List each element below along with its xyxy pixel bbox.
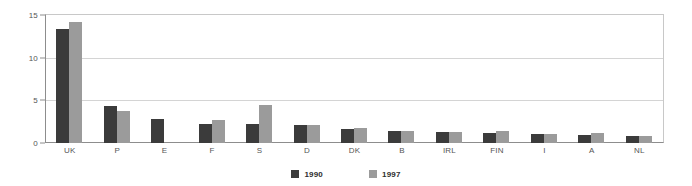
bar-group [531, 15, 558, 143]
bar-p-1997[interactable] [117, 111, 130, 143]
bar-b-1997[interactable] [401, 131, 414, 143]
x-tick-label: NL [634, 146, 645, 155]
bar-group [104, 15, 131, 143]
bars-layer [46, 15, 663, 143]
y-tick-label: 15 [29, 11, 38, 20]
bar-a-1990[interactable] [578, 135, 591, 143]
bar-group [341, 15, 368, 143]
chart-legend: 1990 1997 [0, 167, 692, 181]
bar-group [246, 15, 273, 143]
bar-s-1997[interactable] [259, 105, 272, 143]
bar-irl-1997[interactable] [449, 132, 462, 143]
bar-nl-1997[interactable] [639, 136, 652, 143]
legend-item-1997[interactable]: 1997 [369, 170, 401, 179]
bar-uk-1997[interactable] [69, 22, 82, 143]
bar-group [199, 15, 226, 143]
bar-f-1990[interactable] [199, 124, 212, 143]
x-tick-label: D [304, 146, 310, 155]
x-tick-label: UK [64, 146, 76, 155]
bar-i-1990[interactable] [531, 134, 544, 143]
bar-group [388, 15, 415, 143]
bar-group [294, 15, 321, 143]
bar-fin-1997[interactable] [496, 131, 509, 143]
bar-chart: 051015 UKPEFSDDKBIRLFINIANL 1990 1997 [0, 0, 692, 186]
x-tick-label: E [162, 146, 168, 155]
bar-p-1990[interactable] [104, 106, 117, 143]
bar-d-1997[interactable] [307, 125, 320, 143]
legend-swatch-1997 [369, 170, 377, 178]
x-tick-label: B [399, 146, 405, 155]
legend-label-1997: 1997 [382, 170, 401, 179]
bar-e-1990[interactable] [151, 119, 164, 143]
bar-group [483, 15, 510, 143]
bar-d-1990[interactable] [294, 125, 307, 143]
bar-a-1997[interactable] [591, 133, 604, 143]
y-tick-label: 5 [33, 96, 38, 105]
x-tick-label: FIN [490, 146, 504, 155]
bar-b-1990[interactable] [388, 131, 401, 143]
legend-label-1990: 1990 [304, 170, 323, 179]
bar-irl-1990[interactable] [436, 132, 449, 143]
x-tick-label: A [589, 146, 595, 155]
legend-item-1990[interactable]: 1990 [291, 170, 323, 179]
x-tick-label: DK [349, 146, 361, 155]
bar-s-1990[interactable] [246, 124, 259, 143]
x-tick-label: P [114, 146, 120, 155]
x-tick-label: IRL [443, 146, 456, 155]
bar-group [578, 15, 605, 143]
legend-swatch-1990 [291, 170, 299, 178]
bar-i-1997[interactable] [544, 134, 557, 143]
bar-nl-1990[interactable] [626, 136, 639, 143]
bar-group [626, 15, 653, 143]
x-tick-label: I [543, 146, 545, 155]
bar-group [56, 15, 83, 143]
bar-uk-1990[interactable] [56, 29, 69, 143]
bar-f-1997[interactable] [212, 120, 225, 143]
y-tick-label: 0 [33, 139, 38, 148]
x-axis-labels: UKPEFSDDKBIRLFINIANL [46, 146, 663, 160]
x-tick-label: S [257, 146, 263, 155]
bar-group [436, 15, 463, 143]
bar-dk-1990[interactable] [341, 129, 354, 143]
bar-fin-1990[interactable] [483, 133, 496, 143]
y-tick-label: 10 [29, 53, 38, 62]
bar-dk-1997[interactable] [354, 128, 367, 143]
bar-group [151, 15, 178, 143]
y-axis: 051015 [0, 14, 45, 144]
x-tick-label: F [210, 146, 215, 155]
